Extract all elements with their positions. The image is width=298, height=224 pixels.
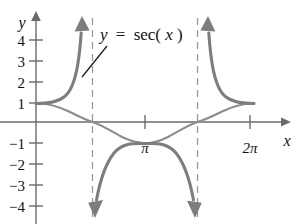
y-tick-label-4: 4 (18, 33, 26, 49)
equation-equals: = (116, 25, 126, 44)
y-axis-label: y (16, 14, 26, 32)
sec-graph-figure: 4 3 2 1 −1 −2 −3 −4 π 2π y x y = sec( x … (0, 0, 298, 224)
y-tick-labels: 4 3 2 1 −1 −2 −3 −4 (9, 33, 25, 215)
sec-branch-middle-right-arrowhead (187, 201, 202, 218)
sec-branch-right-path (209, 33, 254, 104)
x-tick-label-2pi: 2π (242, 140, 258, 156)
equation-annotation: y = sec( x ) (98, 25, 183, 44)
sec-branch-left (36, 16, 90, 104)
sec-branch-left-arrowhead (75, 16, 90, 31)
x-axis-label: x (282, 132, 290, 149)
plot-svg: 4 3 2 1 −1 −2 −3 −4 π 2π y x y = sec( x … (0, 0, 298, 224)
y-axis (31, 11, 41, 224)
y-tick-label-2: 2 (18, 75, 26, 91)
y-axis-arrowhead (31, 11, 41, 21)
equation-argument: x (164, 25, 173, 44)
sec-branch-right (200, 16, 254, 104)
x-axis-arrowhead (281, 117, 291, 126)
y-tick-label-1: 1 (18, 96, 26, 112)
sec-branch-middle-left-arrowhead (88, 200, 103, 218)
x-tick-label-pi: π (141, 140, 149, 156)
equation-close-paren: ) (177, 25, 183, 44)
sec-branch-right-arrowhead (200, 16, 215, 31)
y-tick-label-3: 3 (18, 54, 26, 70)
y-tick-label-neg4: −4 (9, 199, 25, 215)
annotation-leader-line (82, 46, 107, 77)
y-tick-label-neg2: −2 (9, 157, 25, 173)
equation-annotation-text: y = sec( x ) (98, 25, 183, 44)
y-tick-label-neg1: −1 (9, 136, 25, 152)
sec-branch-left-path (36, 33, 81, 104)
y-tick-label-neg3: −3 (9, 178, 25, 194)
equation-lhs: y (98, 25, 108, 44)
equation-function: sec( (134, 25, 162, 44)
